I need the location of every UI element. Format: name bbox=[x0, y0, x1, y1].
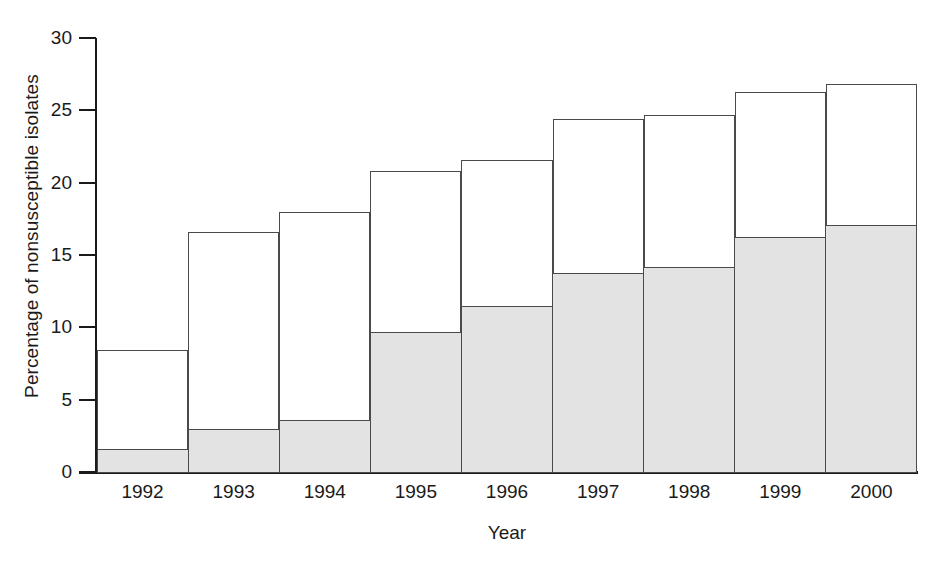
x-axis-tick-label-2000: 2000 bbox=[826, 482, 917, 501]
chart-figure: Percentage of nonsusceptible isolates 05… bbox=[0, 0, 943, 572]
bar-1992 bbox=[97, 350, 188, 472]
x-axis-tick-label-1992: 1992 bbox=[97, 482, 188, 501]
bar-1995 bbox=[370, 171, 461, 472]
bar-segment-lower-1994 bbox=[279, 420, 371, 472]
bar-segment-lower-1998 bbox=[643, 267, 735, 472]
bar-1997 bbox=[553, 119, 644, 472]
x-axis-tick-label-1995: 1995 bbox=[370, 482, 461, 501]
bar-2000 bbox=[826, 84, 917, 472]
y-axis-tick-mark bbox=[79, 254, 96, 256]
x-axis-tick-label-1997: 1997 bbox=[553, 482, 644, 501]
x-axis-tick-label-1996: 1996 bbox=[461, 482, 552, 501]
y-axis-tick-mark bbox=[79, 37, 96, 39]
bar-1999 bbox=[735, 92, 826, 472]
bar-segment-lower-2000 bbox=[825, 225, 917, 472]
y-axis-tick-label: 10 bbox=[0, 317, 72, 336]
y-axis-tick-mark bbox=[79, 399, 96, 401]
x-axis-tick-label-1993: 1993 bbox=[188, 482, 279, 501]
x-axis-tick-label-1998: 1998 bbox=[644, 482, 735, 501]
x-axis-title: Year bbox=[97, 522, 917, 544]
bar-1996 bbox=[461, 160, 552, 472]
bar-1994 bbox=[279, 212, 370, 472]
y-axis-tick-label: 20 bbox=[0, 173, 72, 192]
y-axis-tick-label: 30 bbox=[0, 28, 72, 47]
bar-segment-lower-1996 bbox=[461, 306, 553, 472]
y-axis-tick-mark bbox=[79, 109, 96, 111]
bar-1998 bbox=[644, 115, 735, 472]
bar-1993 bbox=[188, 232, 279, 472]
y-axis-tick-label: 5 bbox=[0, 390, 72, 409]
y-axis-tick-mark bbox=[79, 182, 96, 184]
x-axis-tick-label-1999: 1999 bbox=[735, 482, 826, 501]
y-axis-tick-label: 25 bbox=[0, 100, 72, 119]
y-axis-tick-mark bbox=[79, 471, 96, 473]
plot-area bbox=[97, 38, 917, 472]
bar-segment-lower-1997 bbox=[552, 273, 644, 473]
y-axis-tick-mark bbox=[79, 326, 96, 328]
y-axis-tick-label: 0 bbox=[0, 462, 72, 481]
bar-segment-lower-1995 bbox=[370, 332, 462, 472]
bar-segment-lower-1999 bbox=[734, 237, 826, 473]
y-axis-tick-label: 15 bbox=[0, 245, 72, 264]
bar-segment-lower-1993 bbox=[188, 429, 280, 472]
bar-segment-lower-1992 bbox=[97, 449, 189, 472]
x-axis-tick-label-1994: 1994 bbox=[279, 482, 370, 501]
